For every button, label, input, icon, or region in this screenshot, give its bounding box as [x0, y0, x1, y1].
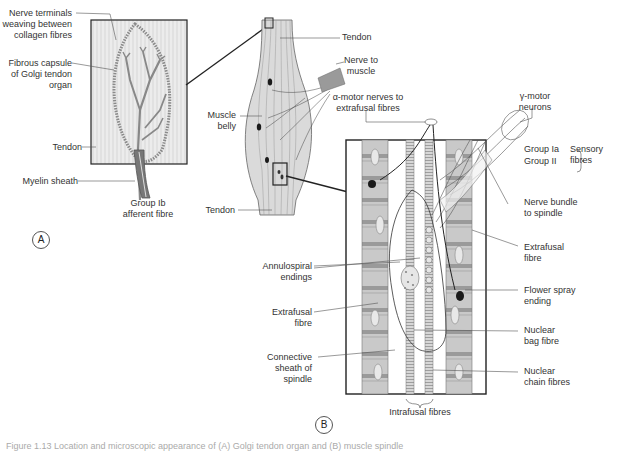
label-line: Sensory: [570, 144, 603, 155]
label-group-ia: Group Ia: [524, 144, 559, 155]
label-line: weaving between: [2, 19, 72, 30]
label-line: afferent fibre: [118, 209, 178, 220]
muscle-illustration: [238, 18, 345, 215]
label-line: neurons: [510, 102, 560, 113]
label-fibrous-capsule: Fibrous capsule of Golgi tendon organ: [8, 58, 72, 91]
label-line: Fibrous capsule: [8, 58, 72, 69]
label-line: belly: [207, 121, 236, 132]
label-tendon-top: Tendon: [342, 32, 372, 43]
label-line: Extrafusal: [524, 242, 564, 253]
label-gamma-motor: γ-motor neurons: [510, 91, 560, 113]
label-nerve-bundle: Nerve bundle to spindle: [524, 197, 578, 219]
label-group-ib: Group Ib afferent fibre: [118, 198, 178, 220]
label-muscle-belly: Muscle belly: [207, 110, 236, 132]
golgi-tendon-organ-illustration: [72, 13, 187, 200]
label-line: endings: [262, 272, 312, 283]
label-line: collagen fibres: [2, 30, 72, 41]
label-line: Extrafusal: [272, 307, 312, 318]
label-line: Connective: [267, 352, 312, 363]
label-line: ending: [524, 296, 576, 307]
label-extrafusal-left: Extrafusal fibre: [272, 307, 312, 329]
label-line: Flower spray: [524, 285, 576, 296]
label-group-ii: Group II: [524, 156, 557, 167]
label-line: Nerve bundle: [524, 197, 578, 208]
label-annulospiral: Annulospiral endings: [262, 261, 312, 283]
label-line: Nuclear: [524, 366, 570, 377]
label-flower-spray: Flower spray ending: [524, 285, 576, 307]
label-line: sheath of: [267, 363, 312, 374]
panel-marker-b: B: [315, 416, 333, 434]
label-line: Nerve terminals: [2, 8, 72, 19]
label-nerve-terminals: Nerve terminals weaving between collagen…: [2, 8, 72, 41]
label-line: extrafusal fibres: [330, 103, 406, 114]
label-line: chain fibres: [524, 377, 570, 388]
label-line: to spindle: [524, 208, 578, 219]
label-sensory-fibres: Sensory fibres: [570, 144, 603, 166]
label-line: γ-motor: [510, 91, 560, 102]
label-line: α-motor nerves to: [330, 92, 406, 103]
label-line: fibre: [272, 318, 312, 329]
label-nuclear-chain: Nuclear chain fibres: [524, 366, 570, 388]
label-nuclear-bag: Nuclear bag fibre: [524, 325, 559, 347]
label-connective-sheath: Connective sheath of spindle: [267, 352, 312, 385]
panel-marker-a: A: [32, 231, 50, 249]
label-line: organ: [8, 80, 72, 91]
label-line: bag fibre: [524, 336, 559, 347]
label-line: fibres: [570, 155, 603, 166]
label-extrafusal-right: Extrafusal fibre: [524, 242, 564, 264]
magnification-line-a: [186, 27, 266, 85]
label-line: Nerve to: [336, 55, 386, 66]
label-intrafusal-fibres: Intrafusal fibres: [385, 407, 455, 418]
label-line: spindle: [267, 374, 312, 385]
label-alpha-motor: α-motor nerves to extrafusal fibres: [330, 92, 406, 114]
label-line: of Golgi tendon: [8, 69, 72, 80]
label-line: Group Ib: [118, 198, 178, 209]
label-tendon-bottom: Tendon: [205, 205, 235, 216]
label-myelin-sheath: Myelin sheath: [22, 176, 78, 187]
label-nerve-to-muscle: Nerve to muscle: [336, 55, 386, 77]
figure-caption: Figure 1.13 Location and microscopic app…: [6, 441, 403, 451]
label-line: Nuclear: [524, 325, 559, 336]
label-line: muscle: [336, 66, 386, 77]
label-tendon-a: Tendon: [52, 142, 82, 153]
label-line: Annulospiral: [262, 261, 312, 272]
label-line: Muscle: [207, 110, 236, 121]
label-line: fibre: [524, 253, 564, 264]
